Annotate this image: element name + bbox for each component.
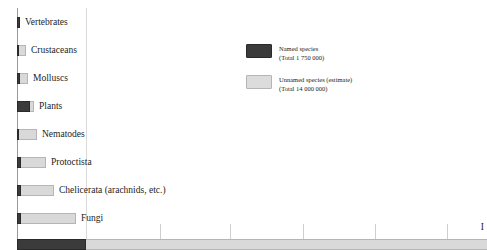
- bar-row: Crustaceans: [17, 45, 77, 56]
- legend-swatch-unnamed-icon: [246, 75, 272, 89]
- bar-label: Fungi: [81, 213, 103, 224]
- bar-label: Molluscs: [33, 73, 68, 84]
- bar-row-insects: [17, 239, 487, 250]
- bar-segment-unnamed: [19, 45, 26, 56]
- legend-total-unnamed: (Total 14 000 000): [279, 84, 352, 93]
- bar-label-insects: I: [481, 222, 484, 232]
- bar-segment-unnamed: [21, 213, 76, 224]
- bar-row: Plants: [17, 101, 62, 112]
- bar-label: Crustaceans: [31, 45, 77, 56]
- bar-row: Molluscs: [17, 73, 68, 84]
- bar-segment-named: [17, 17, 20, 28]
- bar-segment-named: [17, 101, 30, 112]
- legend-swatch-named-icon: [246, 44, 272, 58]
- chart-legend: Named species (Total 1 750 000) Unnamed …: [246, 44, 352, 106]
- bar-label: Vertebrates: [25, 17, 68, 28]
- bar-label: Plants: [39, 101, 62, 112]
- bar-rows: VertebratesCrustaceansMolluscsPlantsNema…: [0, 0, 487, 250]
- bar-segment-unnamed: [21, 157, 46, 168]
- legend-label-named: Named species: [279, 45, 318, 52]
- legend-item-named: Named species (Total 1 750 000): [246, 44, 352, 62]
- bar-label: Chelicerata (arachnids, etc.): [59, 185, 166, 196]
- bar-segment-unnamed: [86, 239, 487, 250]
- bar-row: Chelicerata (arachnids, etc.): [17, 185, 166, 196]
- bar-segment-unnamed: [21, 185, 54, 196]
- bar-label: Protoctista: [51, 157, 92, 168]
- bar-row: Protoctista: [17, 157, 92, 168]
- legend-label-unnamed: Unnamed species (estimate): [279, 76, 352, 83]
- species-bar-chart: VertebratesCrustaceansMolluscsPlantsNema…: [0, 0, 487, 250]
- bar-row: Fungi: [17, 213, 103, 224]
- bar-segment-unnamed: [20, 73, 28, 84]
- legend-total-named: (Total 1 750 000): [279, 53, 324, 62]
- bar-label: Nematodes: [42, 129, 85, 140]
- bar-segment-named: [17, 239, 86, 250]
- bar-row: Nematodes: [17, 129, 85, 140]
- bar-segment-unnamed: [19, 129, 37, 140]
- legend-item-unnamed: Unnamed species (estimate) (Total 14 000…: [246, 75, 352, 93]
- bar-row: Vertebrates: [17, 17, 68, 28]
- bar-segment-unnamed: [30, 101, 34, 112]
